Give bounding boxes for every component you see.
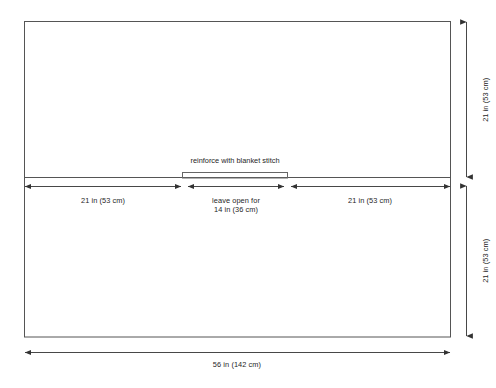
dimension-label-top-height: 21 in (53 cm) — [481, 45, 491, 155]
dimension-label-left: 21 in (53 cm) — [43, 196, 163, 206]
dimension-label-center-line2: 14 in (36 cm) — [186, 205, 286, 215]
dimension-label-bottom-height: 21 in (53 cm) — [481, 206, 491, 316]
sewing-pattern-diagram: reinforce with blanket stitch 21 in (53 … — [0, 0, 496, 388]
diagram-canvas — [0, 0, 496, 388]
reinforce-note-label: reinforce with blanket stitch — [150, 156, 320, 165]
fabric-panel-outline — [25, 22, 451, 338]
dimension-label-overall-width: 56 in (142 cm) — [177, 360, 297, 370]
dimension-label-right: 21 in (53 cm) — [310, 196, 430, 206]
